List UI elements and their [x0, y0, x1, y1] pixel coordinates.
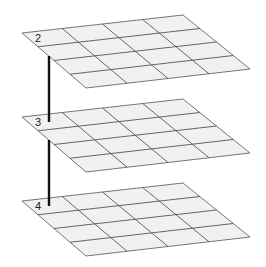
layer-plane-2: 2: [22, 15, 250, 88]
layer-plane-3: 3: [22, 99, 250, 172]
layer-stack-diagram: 234: [0, 0, 266, 267]
layer-label: 4: [35, 200, 41, 212]
layer-label: 2: [35, 32, 41, 44]
layer-plane-4: 4: [22, 183, 250, 256]
layer-label: 3: [35, 116, 41, 128]
